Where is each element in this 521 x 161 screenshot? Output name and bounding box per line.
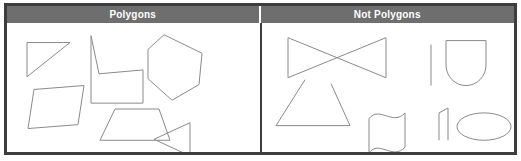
- panel-body: [7, 23, 514, 152]
- right-triangle: [27, 43, 70, 77]
- open-quadrilateral: [439, 108, 448, 140]
- polygons-group: [27, 35, 202, 152]
- trapezoid: [100, 109, 170, 140]
- parallelogram: [28, 86, 84, 129]
- shapes-canvas: [7, 23, 514, 152]
- concave-chair-polygon: [91, 36, 143, 103]
- ellipse: [457, 113, 511, 140]
- figure-frame: Polygons Not Polygons: [4, 3, 517, 155]
- wavy-flag: [369, 113, 405, 152]
- not-polygons-group: [276, 38, 511, 152]
- left-pointing-triangle: [154, 123, 190, 152]
- pentagon: [148, 35, 202, 100]
- header-row: Polygons Not Polygons: [7, 6, 514, 23]
- column-header-polygons: Polygons: [7, 6, 261, 23]
- figure-root: Polygons Not Polygons: [0, 0, 521, 161]
- column-header-not-polygons: Not Polygons: [261, 6, 515, 23]
- u-shape-curved: [446, 41, 486, 86]
- open-parallelogram: [276, 80, 350, 126]
- bowtie-self-intersecting: [288, 38, 386, 78]
